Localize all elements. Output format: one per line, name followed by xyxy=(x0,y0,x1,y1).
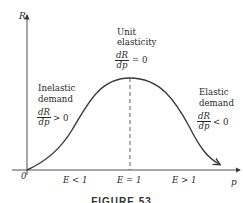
inelastic-relation: > 0 xyxy=(53,113,68,123)
unit-elasticity-title-2: elasticity xyxy=(117,37,156,47)
elastic-derivative: dR dp xyxy=(197,112,211,131)
origin-label: 0 xyxy=(21,171,26,181)
elastic-title-1: Elastic xyxy=(199,87,229,97)
y-axis-label: R xyxy=(19,11,26,21)
tick-elastic: E > 1 xyxy=(172,175,196,185)
inelastic-derivative-den: dp xyxy=(37,118,51,127)
tick-unit: E = 1 xyxy=(117,175,141,185)
inelastic-derivative: dR dp xyxy=(37,108,51,127)
elastic-relation: < 0 xyxy=(213,117,228,127)
x-axis-label: p xyxy=(231,177,237,187)
unit-derivative: dR dp xyxy=(115,51,129,70)
elastic-title-2: demand xyxy=(199,98,234,108)
unit-relation: = 0 xyxy=(132,55,147,65)
inelastic-title-2: demand xyxy=(38,94,73,104)
tick-inelastic: E < 1 xyxy=(63,175,87,185)
inelastic-title-1: Inelastic xyxy=(38,83,75,93)
figure-caption: FIGURE 53 xyxy=(0,196,243,203)
unit-derivative-den: dp xyxy=(115,61,129,70)
elastic-derivative-den: dp xyxy=(197,122,211,131)
unit-elasticity-title-1: Unit xyxy=(117,27,136,37)
